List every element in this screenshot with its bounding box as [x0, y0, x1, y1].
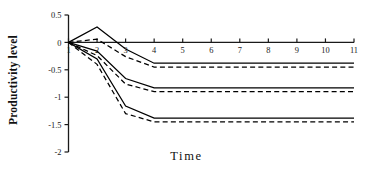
x-tick-label-9: 10 [321, 46, 329, 55]
x-tick-label-6: 7 [238, 46, 242, 55]
y-tick-label-1: 0 [57, 39, 61, 48]
chart-figure: Productivity level 0.50-0.5-1-1.5-212345… [0, 0, 373, 176]
y-tick-label-4: -1.5 [48, 121, 61, 130]
x-tick-label-8: 9 [295, 46, 299, 55]
x-tick-label-10: 11 [350, 46, 358, 55]
x-tick-label-4: 5 [181, 46, 185, 55]
y-tick-label-0: 0.5 [51, 11, 61, 20]
series-upper-solid [69, 27, 355, 63]
x-tick-label-7: 8 [266, 46, 270, 55]
x-axis-title: Time [0, 149, 373, 164]
x-tick-label-5: 6 [209, 46, 213, 55]
y-tick-label-2: -0.5 [48, 66, 61, 75]
x-tick-label-0: 1 [66, 46, 70, 55]
x-tick-label-3: 4 [152, 46, 157, 55]
y-tick-label-3: -1 [55, 93, 62, 102]
